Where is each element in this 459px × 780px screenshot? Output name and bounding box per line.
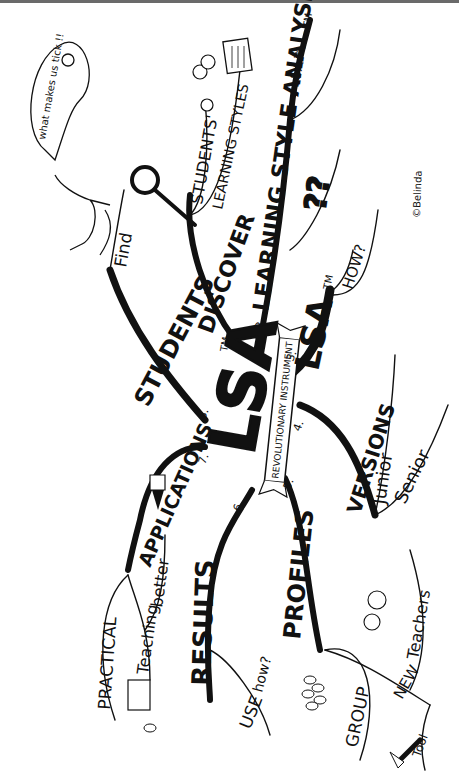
lesson-document-icon	[128, 680, 156, 732]
sub-label-questions: ??	[297, 174, 337, 213]
sub-label-practical: PRACTICAL	[94, 616, 120, 711]
sub-label-senior: Senior	[390, 445, 434, 506]
crowd-icon	[302, 676, 326, 710]
magnifier-icon	[132, 167, 195, 225]
mind-map: LSA TM REVOLUTIONARY INSTRUMENT 1. 2. 3.…	[0, 0, 459, 780]
sub-label-how-results: how?	[249, 655, 274, 694]
signature: ©Belinda	[411, 170, 424, 218]
document-icon	[223, 38, 252, 73]
branch-label-lsa: LSA	[287, 294, 341, 374]
sub-label-teaching: Teaching	[133, 603, 162, 676]
branch-number-4: 4.	[291, 419, 307, 433]
speech-bubble: what makes us tick !!	[31, 33, 89, 160]
teachers-faces-icon	[364, 591, 386, 630]
branch-analysis-tm: TM	[301, 12, 314, 29]
faces-icon	[193, 55, 215, 111]
sub-label-find: Find	[110, 231, 136, 269]
branch-label-learning-style-analysis: LEARNING STYLE ANALYSIS	[248, 0, 320, 313]
sub-label-how: HOW?	[339, 242, 370, 291]
sub-label-teachers: Teachers	[403, 588, 434, 662]
branch-label-results: RESULTS	[186, 559, 220, 686]
